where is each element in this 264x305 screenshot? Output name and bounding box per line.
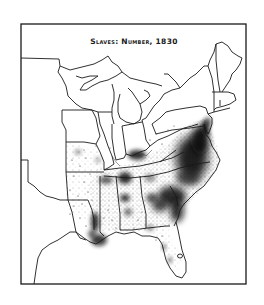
- map-figure: Slaves: Number, 1830: [0, 0, 264, 305]
- map-title: Slaves: Number, 1830: [21, 37, 247, 46]
